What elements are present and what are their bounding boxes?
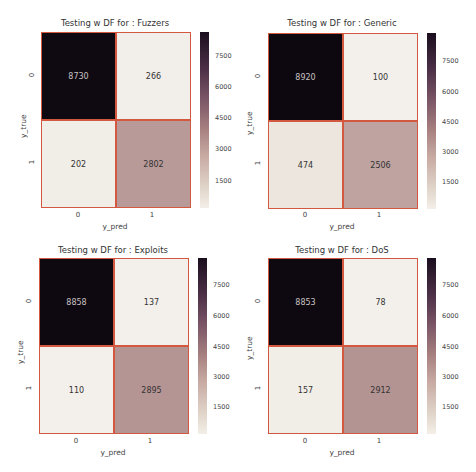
cell-tn: 8858	[39, 258, 114, 346]
y-tick: 0	[254, 74, 262, 78]
y-tick: 1	[254, 161, 262, 165]
chart-title: Testing w DF for : Generic	[287, 18, 396, 28]
cell-fn: 110	[39, 346, 114, 434]
y-tick: 0	[25, 299, 33, 303]
y-axis-label: y_true	[16, 340, 25, 364]
colorbar-tick: 3000	[442, 373, 459, 381]
x-tick: 1	[377, 437, 381, 445]
colorbar-tick: 6000	[215, 83, 232, 91]
heatmap: 8853 78 157 2912	[268, 258, 418, 434]
chart-title: Testing w DF for : DoS	[295, 245, 388, 255]
confusion-matrix-fuzzers: Testing w DF for : Fuzzers 8730 266 202 …	[0, 0, 238, 236]
x-tick: 1	[148, 437, 152, 445]
cell-tp: 2802	[116, 120, 191, 208]
y-axis-label: y_true	[19, 114, 28, 138]
cell-fp: 266	[116, 32, 191, 120]
cell-tn: 8730	[41, 32, 116, 120]
chart-title: Testing w DF for : Exploits	[58, 245, 168, 255]
colorbar-tick: 4500	[213, 343, 230, 351]
cell-tn: 8853	[268, 258, 343, 346]
colorbar-tick: 3000	[442, 148, 459, 156]
colorbar-tick: 1500	[442, 403, 459, 411]
colorbar-tick: 7500	[442, 281, 459, 289]
y-tick: 0	[28, 73, 36, 77]
x-tick: 1	[150, 211, 154, 219]
y-axis-label: y_true	[245, 336, 254, 360]
cell-fp: 137	[114, 258, 189, 346]
y-tick: 1	[28, 160, 36, 164]
confusion-matrix-generic: Testing w DF for : Generic 8920 100 474 …	[238, 0, 476, 236]
colorbar	[200, 32, 209, 208]
colorbar-tick: 1500	[442, 178, 459, 186]
colorbar-tick: 6000	[442, 312, 459, 320]
colorbar-tick: 4500	[442, 343, 459, 351]
y-axis-label: y_true	[245, 111, 254, 135]
y-tick: 1	[25, 386, 33, 390]
x-tick: 0	[303, 437, 307, 445]
colorbar-tick: 6000	[442, 88, 459, 96]
colorbar-tick: 7500	[442, 57, 459, 65]
colorbar-tick: 7500	[213, 281, 230, 289]
heatmap: 8730 266 202 2802	[41, 32, 191, 208]
chart-title: Testing w DF for : Fuzzers	[61, 18, 169, 28]
cell-fn: 202	[41, 120, 116, 208]
colorbar-tick: 4500	[215, 114, 232, 122]
cell-fp: 78	[343, 258, 418, 346]
colorbar-tick: 3000	[215, 145, 232, 153]
heatmap: 8920 100 474 2506	[268, 33, 418, 209]
x-tick: 0	[303, 211, 307, 219]
colorbar-tick: 6000	[213, 312, 230, 320]
colorbar-tick: 7500	[215, 52, 232, 60]
heatmap: 8858 137 110 2895	[39, 258, 189, 434]
cell-tp: 2895	[114, 346, 189, 434]
cell-fn: 474	[268, 121, 343, 209]
cell-fn: 157	[268, 346, 343, 434]
colorbar-tick: 1500	[215, 177, 232, 185]
confusion-matrix-exploits: Testing w DF for : Exploits 8858 137 110…	[0, 236, 238, 472]
cell-tn: 8920	[268, 33, 343, 121]
cell-tp: 2912	[343, 346, 418, 434]
colorbar-tick: 4500	[442, 118, 459, 126]
colorbar	[198, 258, 207, 434]
x-tick: 0	[74, 437, 78, 445]
colorbar	[427, 258, 436, 434]
colorbar-tick: 1500	[213, 403, 230, 411]
x-tick: 1	[377, 211, 381, 219]
x-tick: 0	[76, 211, 80, 219]
x-axis-label: y_pred	[329, 448, 354, 457]
y-tick: 0	[254, 299, 262, 303]
confusion-matrix-dos: Testing w DF for : DoS 8853 78 157 2912 …	[238, 236, 476, 472]
x-axis-label: y_pred	[329, 222, 354, 231]
y-tick: 1	[254, 386, 262, 390]
colorbar-tick: 3000	[213, 373, 230, 381]
x-axis-label: y_pred	[102, 222, 127, 231]
cell-tp: 2506	[343, 121, 418, 209]
x-axis-label: y_pred	[100, 448, 125, 457]
cell-fp: 100	[343, 33, 418, 121]
colorbar	[427, 33, 436, 209]
